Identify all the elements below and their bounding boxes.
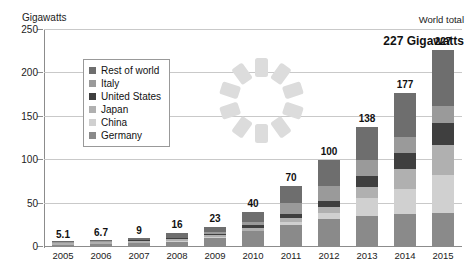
bar-total-label: 177 — [386, 79, 424, 90]
bar-segment-germany[interactable] — [204, 238, 226, 247]
y-tick-label: 50 — [6, 199, 38, 209]
bar-stack[interactable] — [242, 212, 264, 247]
bar-total-label: 9 — [120, 225, 158, 236]
bar-stack[interactable] — [432, 50, 454, 247]
x-tick-label-2013: 2013 — [346, 250, 388, 261]
bar-segment-germany[interactable] — [242, 231, 264, 247]
legend-swatch-icon — [89, 67, 96, 74]
bar-segment-rest-of-world[interactable] — [432, 50, 454, 106]
bar-total-label: 227 — [424, 36, 462, 47]
bar-total-label: 138 — [348, 113, 386, 124]
bar-stack[interactable] — [166, 233, 188, 247]
bar-total-label: 6.7 — [82, 227, 120, 238]
bar-segment-rest-of-world[interactable] — [356, 127, 378, 160]
bar-segment-japan[interactable] — [394, 169, 416, 189]
bar-segment-rest-of-world[interactable] — [318, 160, 340, 186]
y-tick-label: 150 — [6, 112, 38, 122]
bar-total-label: 100 — [310, 146, 348, 157]
bar-segment-germany[interactable] — [432, 213, 454, 247]
x-tick-label-2007: 2007 — [118, 250, 160, 261]
bar-segment-germany[interactable] — [318, 219, 340, 247]
bar-stack[interactable] — [90, 240, 112, 247]
legend-swatch-icon — [89, 119, 96, 126]
legend-swatch-icon — [89, 93, 96, 100]
legend-item-china[interactable]: China — [89, 116, 161, 129]
bar-total-label: 23 — [196, 213, 234, 224]
y-tick-label: 0 — [6, 242, 38, 252]
legend-swatch-icon — [89, 132, 96, 139]
bar-stack[interactable] — [204, 227, 226, 247]
bar-segment-germany[interactable] — [166, 242, 188, 247]
bar-segment-japan[interactable] — [432, 145, 454, 175]
bar-segment-united-states[interactable] — [356, 176, 378, 187]
bar-segment-germany[interactable] — [394, 214, 416, 247]
bar-segment-united-states[interactable] — [432, 123, 454, 145]
y-axis-line — [44, 30, 45, 248]
legend-swatch-icon — [89, 80, 96, 87]
y-tick-label: 200 — [6, 68, 38, 78]
bar-stack[interactable] — [128, 238, 150, 247]
bar-segment-china[interactable] — [394, 189, 416, 213]
bar-stack[interactable] — [318, 160, 340, 247]
bar-stack[interactable] — [394, 93, 416, 247]
gridline-250 — [44, 29, 462, 30]
bar-segment-germany[interactable] — [52, 245, 74, 247]
legend-item-rest-of-world[interactable]: Rest of world — [89, 64, 161, 77]
legend-label: China — [101, 117, 127, 128]
bar-total-label: 5.1 — [44, 229, 82, 240]
bar-segment-germany[interactable] — [90, 244, 112, 247]
bar-segment-italy[interactable] — [432, 106, 454, 122]
bar-stack[interactable] — [280, 186, 302, 247]
bar-segment-japan[interactable] — [356, 187, 378, 199]
solar-capacity-chart: Gigawatts World total 227 Gigawatts 0501… — [0, 0, 472, 279]
x-tick-label-2010: 2010 — [232, 250, 274, 261]
bar-total-label: 16 — [158, 219, 196, 230]
bar-segment-italy[interactable] — [318, 186, 340, 200]
x-tick-label-2015: 2015 — [422, 250, 464, 261]
chart-legend: Rest of worldItalyUnited StatesJapanChin… — [83, 59, 170, 147]
bar-total-label: 40 — [234, 198, 272, 209]
bar-segment-italy[interactable] — [356, 160, 378, 176]
bar-segment-united-states[interactable] — [394, 153, 416, 169]
bar-segment-italy[interactable] — [280, 203, 302, 214]
x-tick-labels: 2005200620072008200920102011201220132014… — [44, 250, 462, 268]
legend-label: Rest of world — [101, 65, 159, 76]
bar-segment-rest-of-world[interactable] — [280, 186, 302, 203]
legend-item-italy[interactable]: Italy — [89, 77, 161, 90]
x-tick-label-2005: 2005 — [42, 250, 84, 261]
legend-label: Japan — [101, 104, 128, 115]
bar-segment-rest-of-world[interactable] — [242, 212, 264, 222]
bar-segment-china[interactable] — [356, 198, 378, 215]
y-tick-label: 100 — [6, 155, 38, 165]
bar-total-label: 70 — [272, 172, 310, 183]
bar-segment-germany[interactable] — [128, 243, 150, 247]
legend-label: Germany — [101, 130, 142, 141]
bar-segment-rest-of-world[interactable] — [394, 93, 416, 137]
legend-label: Italy — [101, 78, 119, 89]
x-tick-label-2011: 2011 — [270, 250, 312, 261]
bar-stack[interactable] — [52, 241, 74, 247]
y-axis-unit-label: Gigawatts — [22, 12, 66, 23]
x-tick-label-2012: 2012 — [308, 250, 350, 261]
bar-segment-germany[interactable] — [280, 225, 302, 247]
legend-swatch-icon — [89, 106, 96, 113]
bar-segment-china[interactable] — [432, 175, 454, 213]
bar-segment-italy[interactable] — [394, 137, 416, 153]
legend-item-germany[interactable]: Germany — [89, 129, 161, 142]
legend-label: United States — [101, 91, 161, 102]
world-total-label: World total — [419, 14, 464, 25]
x-tick-label-2014: 2014 — [384, 250, 426, 261]
legend-item-united-states[interactable]: United States — [89, 90, 161, 103]
x-tick-label-2008: 2008 — [156, 250, 198, 261]
legend-item-japan[interactable]: Japan — [89, 103, 161, 116]
x-tick-label-2009: 2009 — [194, 250, 236, 261]
x-tick-label-2006: 2006 — [80, 250, 122, 261]
bar-segment-germany[interactable] — [356, 216, 378, 248]
y-tick-label: 250 — [6, 25, 38, 35]
bar-stack[interactable] — [356, 127, 378, 247]
